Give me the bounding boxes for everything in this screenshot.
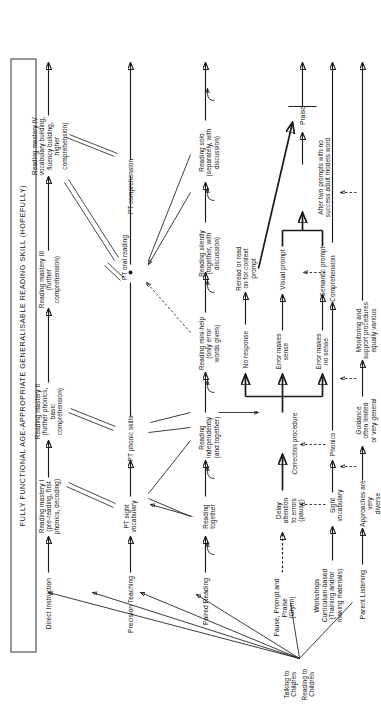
node-adult-models-word: After two prompts with no success adult … — [316, 134, 331, 220]
node-reading-mastery-4: Reading mastery IV vocabulary building, … — [30, 115, 67, 176]
node-reading-together: Reading together — [201, 496, 216, 536]
node-no-response: No response — [241, 324, 248, 374]
origin-reading-to-children: Reading to Children — [300, 658, 315, 710]
column-header-precision-teaching: Precision Teaching — [126, 574, 134, 634]
node-error-makes-sense: Error makes sense — [274, 328, 289, 374]
node-reading-mastery-3: Reading mastery III (further comprehensi… — [37, 250, 59, 308]
node-correction-procedure: Correction procedure — [290, 410, 297, 476]
node-pt-sight-vocabulary: PT sight vocabulary — [122, 496, 137, 536]
node-reading-solo: Reading solo (separately, with discussio… — [197, 122, 219, 182]
column-header-pause-prompt-praise: Pause, Prompt and Praise (Glynn) — [272, 574, 295, 640]
diagram-canvas: FULLY FUNCTIONAL AGE-APPROPRIATE GENERAL… — [0, 0, 381, 712]
column-header-paired-reading: Paired Reading — [201, 574, 209, 628]
node-semantic-prompt: Semantic prompt — [318, 244, 325, 298]
column-header-workshops: Workshops Curriculum-based (Training and… — [312, 562, 342, 628]
rotated-diagram-layer: FULLY FUNCTIONAL AGE-APPROPRIATE GENERAL… — [0, 0, 381, 712]
node-reading-mastery-1: Reading mastery I (pre-reading, first ph… — [37, 477, 59, 535]
node-pt-phonic-skills: PT phonic skills — [126, 414, 133, 462]
node-pt-oral-reading: PT oral reading — [120, 232, 127, 282]
node-reading-silently: Reading silently (together, with discuss… — [197, 224, 219, 282]
node-reading-mini-help: Reading mini-help (only error words give… — [197, 314, 219, 372]
node-error-makes-no-sense: Error makes no sense — [314, 328, 329, 374]
node-delay-attention-to-errors: Delay attention to errors (pause) — [274, 488, 304, 532]
node-praise: Praise — [298, 102, 305, 128]
node-reading-independently: Reading independently (and together) — [197, 412, 219, 462]
column-header-direct-instruction: Direct Instruction — [44, 574, 52, 632]
node-pt-comprehension: PT comprehension — [126, 156, 133, 216]
goal-box-label: FULLY FUNCTIONAL AGE-APPROPRIATE GENERAL… — [18, 59, 26, 651]
node-reread-or-read-on: Reread or read on for context prompt — [234, 242, 256, 294]
node-visual-prompt: Visual prompt — [278, 244, 285, 294]
node-ws-comprehension: Comprehension — [328, 250, 335, 306]
node-guidance-limited: Guidance often limited or very general — [354, 394, 376, 446]
column-header-parent-listening: Parent Listening — [358, 566, 366, 622]
node-ws-sight-vocabulary: Sight vocabulary — [328, 486, 343, 524]
node-ws-phonics: Phonics — [328, 428, 335, 460]
node-reading-mastery-2: Reading mastery II (further phonics, bas… — [33, 382, 63, 440]
node-monitoring-support: Monitoring and support procedures equall… — [354, 300, 376, 360]
node-approaches-diverse: Approaches are very diverse — [358, 478, 380, 528]
origin-arrow-icon: ↓ — [291, 658, 298, 710]
